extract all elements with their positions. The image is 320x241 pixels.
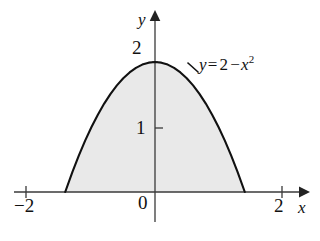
equation-exponent: 2: [249, 53, 255, 65]
origin-label: 0: [138, 193, 148, 212]
equation-minus-sign: −: [229, 55, 241, 74]
y-axis-label: y: [138, 11, 146, 28]
figure-container: y x 2 1 0 −2 2 y=2−x2: [0, 0, 320, 241]
equation-equals: =: [207, 55, 219, 74]
x-axis-arrowhead: [299, 187, 310, 198]
y-tick-label-2: 2: [132, 38, 142, 57]
plot-canvas: [0, 0, 320, 241]
equation-variable: x: [241, 55, 249, 74]
y-tick-label-1: 1: [136, 118, 146, 137]
y-axis-arrowhead: [150, 10, 161, 21]
equation-constant: 2: [219, 55, 230, 74]
x-axis-label: x: [298, 199, 306, 216]
equation-lhs: y: [199, 55, 207, 74]
curve-equation-label: y=2−x2: [199, 56, 255, 73]
x-tick-label-2: 2: [274, 196, 284, 215]
x-tick-label-neg2: −2: [14, 196, 34, 215]
equation-leader-line: [188, 63, 198, 72]
